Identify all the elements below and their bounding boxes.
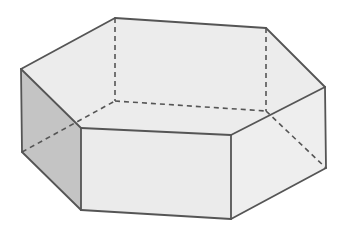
prism-figure: [0, 0, 343, 229]
visible-edge: [21, 69, 22, 152]
front-face: [81, 128, 231, 219]
visible-edge: [325, 87, 326, 168]
hexagonal-prism-diagram: Hexagonal prism: [0, 0, 343, 229]
prism-faces: [21, 18, 326, 219]
